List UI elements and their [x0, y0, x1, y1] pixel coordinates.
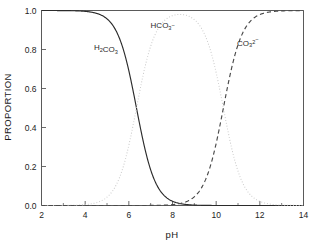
x-tick-label: 2 — [39, 210, 44, 220]
x-tick-label: 6 — [126, 210, 131, 220]
x-tick-label: 4 — [83, 210, 88, 220]
x-tick-label: 8 — [170, 210, 175, 220]
annotation-hco3: HCO3− — [151, 21, 175, 31]
y-tick-label: 0.6 — [25, 84, 37, 94]
x-tick-label: 10 — [211, 210, 221, 220]
y-axis-title: PROPORTION — [2, 73, 13, 141]
chart-canvas: 2468101214 0.00.20.40.60.81.0 H2CO3HCO3−… — [0, 0, 315, 245]
y-tick-label: 1.0 — [25, 6, 37, 16]
chart-background — [0, 0, 315, 245]
x-tick-label: 12 — [255, 210, 265, 220]
carbonate-speciation-chart: 2468101214 0.00.20.40.60.81.0 H2CO3HCO3−… — [0, 0, 315, 245]
y-tick-label: 0.2 — [25, 162, 37, 172]
x-tick-label: 14 — [299, 210, 309, 220]
x-axis-title: pH — [166, 229, 179, 240]
y-tick-label: 0.4 — [25, 123, 37, 133]
y-tick-label: 0.8 — [25, 45, 37, 55]
y-tick-label: 0.0 — [25, 201, 37, 211]
